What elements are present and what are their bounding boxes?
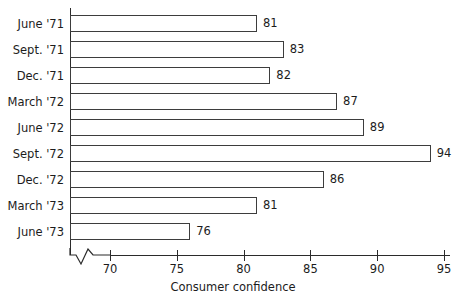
y-axis-label-0: June '71: [0, 17, 64, 31]
bar-value-june-72: 89: [370, 120, 385, 134]
bar-march-72: [70, 93, 337, 110]
bar-value-dec-72: 86: [330, 172, 345, 186]
y-axis-label-1: Sept. '71: [0, 43, 64, 57]
x-axis-tick-70: [110, 250, 111, 261]
x-axis-line: [110, 255, 450, 256]
bar-june-73: [70, 223, 190, 240]
y-axis-label-3: March '72: [0, 95, 64, 109]
x-axis-tick-label-75: 75: [169, 262, 184, 276]
bar-chart: June '71 Sept. '71 Dec. '71 March '72 Ju…: [0, 0, 466, 307]
x-axis-tick-90: [377, 250, 378, 261]
bar-june-72: [70, 119, 364, 136]
x-axis-tick-label-90: 90: [370, 262, 385, 276]
x-axis-tick-95: [444, 250, 445, 261]
bar-value-sept-72: 94: [437, 146, 452, 160]
x-axis-tick-label-80: 80: [236, 262, 251, 276]
y-axis-label-7: March '73: [0, 199, 64, 213]
bar-june-71: [70, 15, 257, 32]
y-axis-category-labels: June '71 Sept. '71 Dec. '71 March '72 Ju…: [0, 0, 66, 255]
x-axis-tick-label-70: 70: [103, 262, 118, 276]
x-axis-title: Consumer confidence: [0, 280, 466, 294]
x-axis-tick-75: [177, 250, 178, 261]
bar-dec-71: [70, 67, 270, 84]
y-axis-label-8: June '73: [0, 225, 64, 239]
bar-value-june-71: 81: [263, 16, 278, 30]
y-axis-label-6: Dec. '72: [0, 173, 64, 187]
bar-sept-72: [70, 145, 431, 162]
bar-dec-72: [70, 171, 324, 188]
x-axis-tick-label-85: 85: [303, 262, 318, 276]
y-axis-label-2: Dec. '71: [0, 69, 64, 83]
x-axis: 707580859095 Consumer confidence: [0, 248, 466, 307]
bar-value-march-73: 81: [263, 198, 278, 212]
bar-sept-71: [70, 41, 284, 58]
bar-march-73: [70, 197, 257, 214]
y-axis-label-4: June '72: [0, 121, 64, 135]
bar-value-sept-71: 83: [290, 42, 305, 56]
x-axis-tick-85: [310, 250, 311, 261]
y-axis-label-5: Sept. '72: [0, 147, 64, 161]
plot-area: 81 83 82 87 89 94 86 81 76: [70, 0, 466, 255]
bar-value-dec-71: 82: [276, 68, 291, 82]
x-axis-tick-label-95: 95: [437, 262, 452, 276]
x-axis-tick-80: [244, 250, 245, 261]
bar-value-march-72: 87: [343, 94, 358, 108]
bar-value-june-73: 76: [196, 224, 211, 238]
